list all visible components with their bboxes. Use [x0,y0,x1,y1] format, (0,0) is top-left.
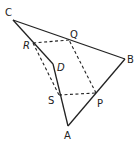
dashed-edge-sp [59,93,96,95]
label-s: S [48,95,54,106]
label-a: A [64,130,71,141]
label-q: Q [70,29,78,40]
label-b: B [127,54,134,65]
label-p: P [97,98,103,109]
dashed-edge-rs [33,43,59,95]
label-r: R [23,40,30,51]
edge-ab [68,59,125,126]
label-d: D [57,62,65,73]
dashed-edge-qr [33,40,69,43]
quadrilateral-diagram: C Q B R D S P A [0,0,139,144]
label-c: C [5,7,12,18]
